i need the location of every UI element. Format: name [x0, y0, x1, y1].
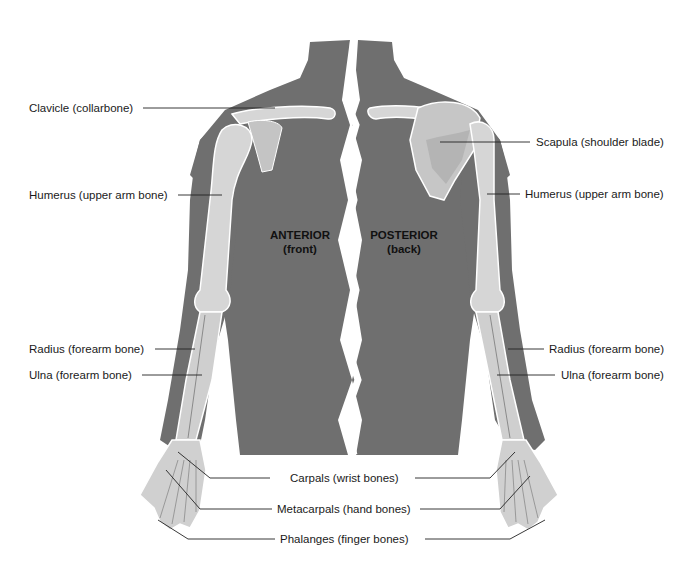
posterior-title: POSTERIOR [362, 228, 446, 242]
label-humerus-anterior: Humerus (upper arm bone) [29, 188, 168, 202]
label-clavicle: Clavicle (collarbone) [29, 101, 133, 115]
posterior-view-label: POSTERIOR (back) [362, 228, 446, 256]
anterior-title: ANTERIOR [262, 228, 338, 242]
label-scapula: Scapula (shoulder blade) [536, 135, 664, 149]
label-phalanges: Phalanges (finger bones) [280, 532, 409, 546]
label-ulna-posterior: Ulna (forearm bone) [561, 368, 664, 382]
label-radius-posterior: Radius (forearm bone) [549, 342, 664, 356]
body-illustration [0, 0, 696, 579]
label-ulna-anterior: Ulna (forearm bone) [29, 368, 132, 382]
anterior-subtitle: (front) [262, 242, 338, 256]
skeleton-diagram: ANTERIOR (front) POSTERIOR (back) Clavic… [0, 0, 696, 579]
label-metacarpals: Metacarpals (hand bones) [277, 502, 411, 516]
label-humerus-posterior: Humerus (upper arm bone) [525, 187, 664, 201]
label-radius-anterior: Radius (forearm bone) [29, 342, 144, 356]
posterior-subtitle: (back) [362, 242, 446, 256]
anterior-view-label: ANTERIOR (front) [262, 228, 338, 256]
label-carpals: Carpals (wrist bones) [290, 471, 399, 485]
